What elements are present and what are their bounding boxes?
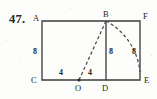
vertex-label-a: A — [33, 14, 39, 23]
point-o-marker — [77, 78, 80, 81]
vertex-label-c: C — [31, 76, 37, 85]
measure-label-base-right: 4 — [88, 69, 92, 77]
vertex-label-e: E — [144, 76, 149, 85]
measure-label-base-left: 4 — [59, 69, 63, 77]
measure-label-middle-side: 8 — [109, 48, 113, 56]
geometry-figure: 47. A B F C O D E 8 8 8 4 4 — [0, 0, 157, 99]
problem-number: 47. — [9, 13, 25, 26]
measure-label-right-side: 8 — [132, 48, 136, 56]
segment-ob-dashed — [79, 21, 106, 80]
vertex-label-b: B — [103, 10, 109, 19]
vertex-label-d: D — [102, 84, 108, 93]
vertex-label-f: F — [143, 12, 148, 21]
measure-label-left-side: 8 — [33, 48, 37, 56]
vertex-label-o: O — [75, 84, 81, 93]
